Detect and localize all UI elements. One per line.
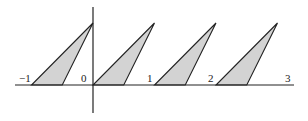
triangle-3 <box>216 23 278 85</box>
tick-label-neg1: −1 <box>19 72 31 84</box>
triangle-2 <box>155 23 217 85</box>
triangle-1 <box>93 23 155 85</box>
tick-label-0: 0 <box>81 72 87 84</box>
triangles <box>32 23 278 85</box>
diagram-canvas: −1 0 1 2 3 <box>0 0 308 121</box>
tick-label-3: 3 <box>285 72 291 84</box>
tick-label-2: 2 <box>208 72 214 84</box>
tick-label-1: 1 <box>147 72 153 84</box>
